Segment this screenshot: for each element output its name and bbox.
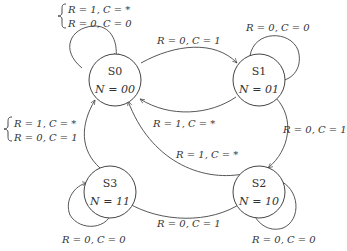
brace-s0-self [58,4,66,28]
state-s0: S0 N = 00 [89,54,141,106]
label-s3-to-s0-1: R = 1, C = * [13,118,76,129]
state-s3-output: N = 11 [89,195,130,208]
state-s1-output: N = 01 [238,83,279,96]
brace-s3-to-s0 [4,117,12,141]
edge-s1-to-s0 [140,97,236,112]
label-s3-self: R = 0, C = 0 [61,234,126,245]
state-s0-output: N = 00 [94,83,135,96]
edge-s0-to-s1 [141,47,237,63]
label-s0-to-s1: R = 0, C = 1 [156,35,221,46]
label-s1-to-s2: R = 0, C = 1 [282,124,347,135]
state-s3: S3 N = 11 [84,166,136,218]
label-s1-self: R = 0, C = 0 [245,22,310,33]
state-s2-output: N = 10 [238,195,279,208]
edge-s3-to-s0 [84,100,100,168]
label-s1-to-s0: R = 1, C = * [152,118,215,129]
label-s3-to-s0-2: R = 0, C = 1 [13,132,78,143]
state-s2-name: S2 [252,177,267,190]
label-s0-self-1: R = 1, C = * [67,4,130,15]
label-s2-to-s3: R = 0, C = 1 [156,218,221,229]
state-s3-name: S3 [103,177,118,190]
state-diagram: S0 N = 00 S1 N = 01 S2 N = 10 S3 N = 11 … [0,0,347,251]
state-s1: S1 N = 01 [233,54,285,106]
label-s2-self: R = 0, C = 0 [251,234,316,245]
edge-s2-to-s3 [128,202,243,218]
state-s1-name: S1 [252,65,267,78]
label-s2-to-s0: R = 1, C = * [175,149,238,160]
state-s2: S2 N = 10 [233,166,285,218]
label-s0-self-2: R = 0, C = 0 [67,18,132,29]
state-s0-name: S0 [108,65,123,78]
